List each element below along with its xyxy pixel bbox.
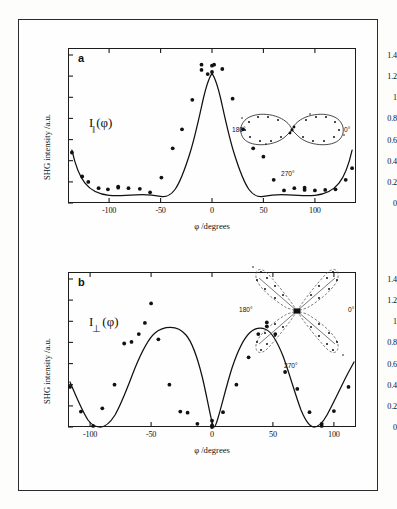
- panel-a-xtick--50: -50: [141, 206, 181, 215]
- panel-b-x-axis-title: φ /degrees: [68, 445, 356, 455]
- panel-b-series-label: I⊥(φ): [89, 314, 119, 332]
- panel-a-data-points: [70, 63, 354, 194]
- panel-b-ytick-02: 0.2: [335, 402, 397, 411]
- panel-b-ytick-1: 1: [335, 317, 397, 326]
- panel-b-inset-label-180: 180°: [239, 306, 253, 313]
- panel-b-ytick-08: 0.8: [335, 338, 397, 347]
- panel-b: 0 0.2 0.4 0.6 0.8 1 1.2 1.4 -100 -50 0 5…: [0, 258, 397, 478]
- panel-a-ytick-0: 0: [335, 199, 397, 208]
- panel-b-ytick-06: 0.6: [335, 360, 397, 369]
- panel-b-xtick-100: 100: [314, 430, 354, 439]
- panel-a-inset-label-270: 270°: [281, 170, 295, 177]
- panel-a-letter: a: [78, 52, 84, 64]
- panel-a-series-argument: (φ): [96, 115, 112, 130]
- panel-a-series-subscript: ‖: [92, 124, 95, 135]
- panel-b-series-argument: (φ): [102, 314, 118, 329]
- panel-b-xtick-0: 0: [192, 430, 232, 439]
- panel-a-y-axis-title: SHG intensity /a.u.: [42, 114, 52, 180]
- panel-a: 0 0.2 0.4 0.6 0.8 1 1.2 1.4 -100 -50 0 5…: [0, 30, 397, 260]
- panel-a-ytick-12: 1.2: [335, 72, 397, 81]
- panel-a-ytick-1: 1: [335, 93, 397, 102]
- panel-b-xtick-50: 50: [253, 430, 293, 439]
- panel-a-x-axis-title: φ /degrees: [68, 221, 356, 231]
- panel-b-polar-inset: [252, 266, 344, 356]
- panel-a-y-ticks: [68, 55, 73, 203]
- panel-a-xtick-0: 0: [192, 206, 232, 215]
- panel-b-y-axis-title: SHG intensity /a.u.: [42, 338, 52, 404]
- panel-a-inset-label-180: 180°: [232, 126, 246, 133]
- panel-b-x-ticks: [90, 272, 334, 427]
- panel-b-xtick--100: -100: [70, 430, 110, 439]
- panel-b-series-subscript: ⊥: [92, 323, 101, 334]
- panel-a-ytick-14: 1.4: [335, 51, 397, 60]
- panel-b-ytick-04: 0.4: [335, 381, 397, 390]
- panel-b-inset-label-270: 270°: [284, 362, 298, 369]
- panel-a-ytick-06: 0.6: [335, 136, 397, 145]
- figure-root: 0 0.2 0.4 0.6 0.8 1 1.2 1.4 -100 -50 0 5…: [0, 0, 397, 509]
- panel-a-ytick-08: 0.8: [335, 114, 397, 123]
- panel-a-xtick-50: 50: [243, 206, 283, 215]
- panel-b-ytick-12: 1.2: [335, 296, 397, 305]
- panel-b-fit-curve: [70, 327, 354, 427]
- panel-b-ytick-14: 1.4: [335, 275, 397, 284]
- panel-b-xtick--50: -50: [131, 430, 171, 439]
- panel-a-ytick-02: 0.2: [335, 178, 397, 187]
- panel-a-ytick-04: 0.4: [335, 157, 397, 166]
- panel-b-y-ticks: [68, 279, 73, 427]
- panel-a-inset-label-0: 0°: [344, 126, 350, 133]
- panel-a-fit-curve: [72, 74, 352, 197]
- panel-a-series-label: I‖(φ): [89, 115, 112, 133]
- panel-a-polar-inset: [241, 113, 345, 145]
- panel-b-letter: b: [78, 276, 85, 288]
- panel-b-inset-label-0: 0°: [348, 306, 354, 313]
- panel-a-xtick--100: -100: [89, 206, 129, 215]
- panel-a-xtick-100: 100: [295, 206, 335, 215]
